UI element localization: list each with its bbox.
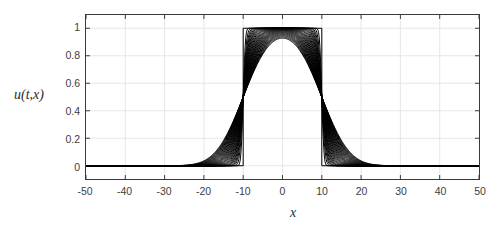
x-tick-label: 0	[280, 185, 286, 197]
y-tick-label: 0	[38, 161, 80, 173]
y-axis-title: u(t,x)	[14, 87, 44, 103]
x-tick-label: 10	[316, 185, 328, 197]
figure-canvas: 00.20.40.60.81 -50-40-30-20-100102030405…	[0, 0, 501, 231]
y-tick-label: 0.2	[38, 133, 80, 145]
x-tick-label: 20	[356, 185, 368, 197]
x-tick-label: 30	[395, 185, 407, 197]
y-tick-label: 0.6	[38, 77, 80, 89]
x-tick-label: -10	[235, 185, 250, 197]
y-tick-label: 1	[38, 21, 80, 33]
grid-lines	[86, 15, 479, 179]
x-tick-label: -30	[156, 185, 171, 197]
x-axis-title: x	[290, 205, 296, 221]
x-tick-label: -40	[117, 185, 132, 197]
y-tick-label: 0.4	[38, 105, 80, 117]
plot-svg	[86, 15, 479, 179]
plot-area	[85, 14, 480, 180]
x-tick-label: 40	[435, 185, 447, 197]
y-tick-label: 0.8	[38, 49, 80, 61]
x-tick-label: 50	[474, 185, 486, 197]
x-tick-label: -20	[196, 185, 211, 197]
x-tick-label: -50	[77, 185, 92, 197]
